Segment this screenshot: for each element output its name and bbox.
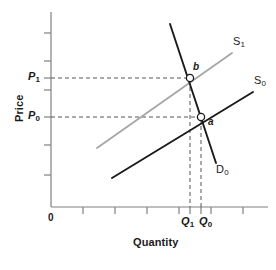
x-tick-label-q1: Q1 <box>181 216 194 229</box>
supply-curve-s0 <box>112 92 253 178</box>
y-tick-label-p0: P0 <box>28 110 40 123</box>
supply-curve-s1 <box>97 53 232 148</box>
x-axis-ticks <box>83 207 243 214</box>
curve-label-d0: D0 <box>216 164 229 177</box>
guide-lines <box>51 78 201 207</box>
demand-curve-d0 <box>170 24 216 163</box>
y-axis-title: Price <box>14 95 25 122</box>
supply-demand-figure: Price Quantity 0 P1 P0 Q1 Q0 S1 S0 D0 b … <box>0 0 276 270</box>
p0-subscript: 0 <box>35 114 40 123</box>
x-tick-label-q0: Q0 <box>199 216 212 229</box>
q1-base: Q <box>181 215 190 227</box>
p1-subscript: 1 <box>35 75 40 84</box>
curve-label-s0: S0 <box>254 75 266 88</box>
origin-label: 0 <box>48 213 54 223</box>
d0-base: D <box>216 163 224 175</box>
y-axis-ticks <box>44 33 51 175</box>
s1-subscript: 1 <box>240 40 245 49</box>
curve-label-s1: S1 <box>233 36 245 49</box>
point-label-b: b <box>193 62 199 72</box>
q0-subscript: 0 <box>208 220 213 229</box>
point-label-a: a <box>208 117 214 127</box>
point-marker-b <box>186 74 193 81</box>
q0-base: Q <box>199 215 208 227</box>
x-axis-title: Quantity <box>133 237 178 248</box>
s0-subscript: 0 <box>261 79 266 88</box>
q1-subscript: 1 <box>190 220 195 229</box>
y-tick-label-p1: P1 <box>28 71 40 84</box>
d0-subscript: 0 <box>224 168 229 177</box>
point-marker-a <box>197 113 204 120</box>
